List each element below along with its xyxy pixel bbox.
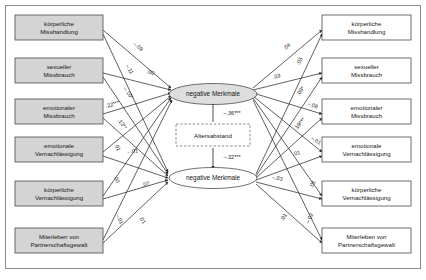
node-right-miterleben-partnerschaftsgewalt: Miterleben von Partnerschaftsgewalt xyxy=(322,228,411,253)
path-diagram-figure: körperliche Misshandlung sexueller Missb… xyxy=(0,0,426,280)
node-right-koerperliche-vernachlaessigung: körperliche Vernachlässigung xyxy=(322,181,411,206)
node-label-line1: emotionaler xyxy=(43,104,75,111)
node-left-emotionaler-missbrauch: emotionaler Missbrauch xyxy=(15,99,103,124)
node-label-line1: sexueller xyxy=(354,63,378,70)
node-label-line2: Missbrauch xyxy=(43,112,74,119)
node-label-line1: emotionale xyxy=(352,142,382,149)
node-left-miterleben-partnerschaftsgewalt: Miterleben von Partnerschaftsgewalt xyxy=(15,228,103,253)
latent-bottom: negative Merkmale xyxy=(169,168,257,189)
node-label-line2: Vernachlässigung xyxy=(342,194,390,201)
coefficient-mediator-bottom: –.32*** xyxy=(223,154,241,160)
node-label-line1: emotionaler xyxy=(351,104,383,111)
node-left-koerperliche-misshandlung: körperliche Misshandlung xyxy=(15,15,103,40)
node-right-sexueller-missbrauch: sexueller Missbrauch xyxy=(322,58,411,83)
node-label-line2: Vernachlässigung xyxy=(35,194,83,201)
node-right-emotionaler-missbrauch: emotionaler Missbrauch xyxy=(322,99,411,124)
node-left-sexueller-missbrauch: sexueller Missbrauch xyxy=(15,58,103,83)
latent-top: negative Merkmale xyxy=(169,84,257,105)
coefficient-mediator-top: –.36*** xyxy=(223,110,241,116)
node-right-emotionale-vernachlaessigung: emotionale Vernachlässigung xyxy=(322,137,411,162)
latent-bottom-label: negative Merkmale xyxy=(186,174,240,182)
node-label-line2: Vernachlässigung xyxy=(342,150,390,157)
node-label-line2: Partnerschaftsgewalt xyxy=(31,241,88,248)
node-label-line2: Misshandlung xyxy=(40,28,78,35)
latent-top-label: negative Merkmale xyxy=(186,90,240,98)
node-label-line2: Vernachlässigung xyxy=(35,150,83,157)
node-label-line1: emotionale xyxy=(44,142,74,149)
node-label-line1: körperliche xyxy=(44,20,74,27)
node-label-line1: sexueller xyxy=(47,63,71,70)
node-label-line1: körperliche xyxy=(44,186,74,193)
node-left-koerperliche-vernachlaessigung: körperliche Vernachlässigung xyxy=(15,181,103,206)
node-label-line1: Miterleben von xyxy=(347,233,387,240)
node-label-line2: Missbrauch xyxy=(351,112,382,119)
node-label-line2: Missbrauch xyxy=(351,71,382,78)
mediator-altersabstand: Altersabstand xyxy=(176,124,250,146)
node-right-koerperliche-misshandlung: körperliche Misshandlung xyxy=(322,15,411,40)
node-label-line2: Missbrauch xyxy=(43,71,74,78)
mediator-label: Altersabstand xyxy=(194,132,232,139)
node-label-line1: Miterleben von xyxy=(39,233,79,240)
node-label-line1: körperliche xyxy=(352,20,382,27)
node-label-line2: Partnerschaftsgewalt xyxy=(338,241,395,248)
node-left-emotionale-vernachlaessigung: emotionale Vernachlässigung xyxy=(15,137,103,162)
node-label-line2: Misshandlung xyxy=(348,28,386,35)
node-label-line1: körperliche xyxy=(352,186,382,193)
